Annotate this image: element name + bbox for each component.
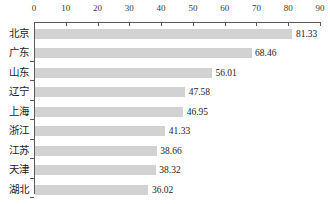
x-tick-60 xyxy=(225,22,226,26)
x-tick-20 xyxy=(98,22,99,26)
x-tick-label-10: 10 xyxy=(61,3,70,14)
x-tick-label-70: 70 xyxy=(252,3,261,14)
x-tick-0 xyxy=(34,22,35,26)
x-tick-label-20: 20 xyxy=(93,3,102,14)
category-label-8: 湖北 xyxy=(0,184,29,196)
x-tick-label-90: 90 xyxy=(316,3,325,14)
x-tick-40 xyxy=(161,22,162,26)
category-label-5: 浙江 xyxy=(0,125,29,137)
x-tick-label-80: 80 xyxy=(284,3,293,14)
y-tick-7 xyxy=(30,178,34,179)
value-label-3: 47.58 xyxy=(189,87,210,98)
y-tick-4 xyxy=(30,119,34,120)
y-tick-5 xyxy=(30,139,34,140)
category-label-0: 北京 xyxy=(0,28,29,40)
y-tick-3 xyxy=(30,100,34,101)
x-tick-label-0: 0 xyxy=(32,3,37,14)
bar-0 xyxy=(35,29,292,39)
x-tick-70 xyxy=(256,22,257,26)
bar-3 xyxy=(35,87,185,97)
value-label-0: 81.33 xyxy=(296,28,317,39)
x-tick-label-40: 40 xyxy=(157,3,166,14)
category-label-3: 辽宁 xyxy=(0,86,29,98)
y-tick-6 xyxy=(30,158,34,159)
bar-6 xyxy=(35,146,157,156)
x-tick-label-60: 60 xyxy=(220,3,229,14)
category-label-6: 江苏 xyxy=(0,145,29,157)
x-tick-80 xyxy=(288,22,289,26)
category-label-2: 山东 xyxy=(0,67,29,79)
category-label-1: 广东 xyxy=(0,47,29,59)
bar-8 xyxy=(35,185,148,195)
bar-5 xyxy=(35,126,165,136)
bar-7 xyxy=(35,165,156,175)
value-label-5: 41.33 xyxy=(169,126,190,137)
value-label-8: 36.02 xyxy=(152,184,173,195)
x-tick-90 xyxy=(320,22,321,26)
y-tick-8 xyxy=(30,197,34,198)
x-tick-50 xyxy=(193,22,194,26)
x-tick-10 xyxy=(66,22,67,26)
x-tick-30 xyxy=(129,22,130,26)
x-axis-line xyxy=(34,22,320,23)
value-label-7: 38.32 xyxy=(159,165,180,176)
x-tick-label-50: 50 xyxy=(188,3,197,14)
y-tick-2 xyxy=(30,80,34,81)
bar-chart: 0102030405060708090 北京广东山东辽宁上海浙江江苏天津湖北 8… xyxy=(0,0,330,204)
bar-4 xyxy=(35,107,183,117)
category-label-7: 天津 xyxy=(0,164,29,176)
category-label-4: 上海 xyxy=(0,106,29,118)
value-label-6: 38.66 xyxy=(160,145,181,156)
y-tick-1 xyxy=(30,61,34,62)
value-label-2: 56.01 xyxy=(215,67,236,78)
value-label-4: 46.95 xyxy=(187,106,208,117)
bar-2 xyxy=(35,68,212,78)
x-tick-label-30: 30 xyxy=(125,3,134,14)
value-label-1: 68.46 xyxy=(255,48,276,59)
bar-1 xyxy=(35,48,252,58)
